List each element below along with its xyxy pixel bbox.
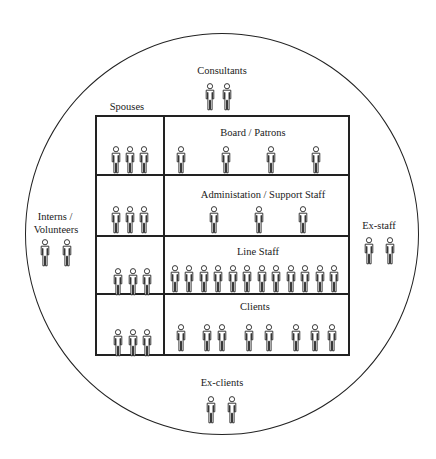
person-icon [226,396,238,424]
person-icon [256,265,268,293]
person-icon [212,265,224,293]
person-icon [112,329,124,357]
person-icon [253,206,265,234]
row-label-admin: Administation / Support Staff [201,189,325,201]
interns-label-line2: Volunteers [34,224,79,236]
person-icon [204,83,216,111]
person-icon [175,146,187,174]
person-icon [201,324,213,352]
person-icon [285,265,297,293]
person-icon [205,396,217,424]
interns-label-line1: Interns / [38,211,73,223]
person-icon [127,268,139,296]
person-icon [198,265,210,293]
person-icon [141,268,153,296]
ex-clients-label: Ex-clients [201,377,244,389]
person-icon [326,324,338,352]
spouses-label: Spouses [110,101,144,113]
person-icon [309,324,321,352]
person-icon [124,146,136,174]
person-icon [328,265,340,293]
person-icon [112,268,124,296]
person-icon [216,324,228,352]
person-icon [221,83,233,111]
person-icon [124,206,136,234]
person-icon [265,146,277,174]
person-icon [138,206,150,234]
person-icon [241,265,253,293]
person-icon [39,239,51,267]
person-icon [299,265,311,293]
row-divider-2 [95,235,349,237]
person-icon [127,329,139,357]
row-label-clients: Clients [240,301,270,313]
box-top-border [95,115,349,117]
row-divider-1 [95,174,349,176]
person-icon [263,324,275,352]
person-icon [220,146,232,174]
row-label-board: Board / Patrons [220,127,285,139]
person-icon [183,265,195,293]
person-icon [227,265,239,293]
person-icon [243,324,255,352]
ex-staff-label: Ex-staff [362,220,396,232]
person-icon [169,265,181,293]
person-icon [290,324,302,352]
person-icon [110,206,122,234]
row-label-line-staff: Line Staff [237,246,279,258]
organization-diagram: Consultants Interns / Volunteers Ex-staf… [0,0,436,459]
person-icon [175,324,187,352]
consultants-label: Consultants [197,65,247,77]
person-icon [208,206,220,234]
person-icon [141,329,153,357]
person-icon [363,237,375,265]
person-icon [61,239,73,267]
person-icon [384,237,396,265]
person-icon [310,146,322,174]
person-icon [270,265,282,293]
person-icon [110,146,122,174]
person-icon [297,206,309,234]
person-icon [138,146,150,174]
person-icon [314,265,326,293]
